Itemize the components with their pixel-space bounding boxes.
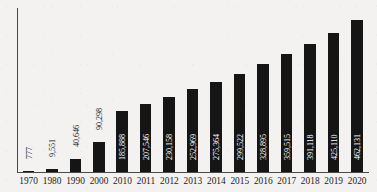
bar-group: 328,895	[252, 8, 274, 172]
bar-value-label: 252,969	[188, 134, 197, 160]
x-axis-tick-label: 2019	[323, 176, 345, 186]
bar[interactable]	[23, 171, 35, 173]
x-axis-tick-label: 1980	[41, 176, 63, 186]
x-axis-tick-label: 2013	[182, 176, 204, 186]
x-axis-tick-label: 2014	[205, 176, 227, 186]
bar-group: 252,969	[182, 8, 204, 172]
x-axis-tick-label: 2020	[346, 176, 368, 186]
bar-group: 359,515	[276, 8, 298, 172]
x-axis-line	[17, 172, 369, 173]
bar-group: 777	[18, 8, 40, 172]
bar-value-label: 328,895	[259, 134, 268, 160]
bar[interactable]	[70, 159, 82, 172]
bar-group: 425,110	[323, 8, 345, 172]
bar-value-label: 275,364	[212, 134, 221, 160]
bar-group: 90,298	[88, 8, 110, 172]
plot-area: 7779,55140,64690,298185,888207,546230,15…	[17, 8, 369, 172]
bar-group: 230,158	[158, 8, 180, 172]
bar-group: 207,546	[135, 8, 157, 172]
bar-value-label: 207,546	[141, 134, 150, 160]
x-axis-tick-label: 2012	[158, 176, 180, 186]
bar-value-label: 462,131	[353, 134, 362, 160]
x-axis-labels: 1970198019902000201020112012201320142015…	[17, 175, 369, 192]
x-axis-tick-label: 1970	[18, 176, 40, 186]
x-axis-tick-label: 2011	[135, 176, 157, 186]
x-axis-tick-label: 2010	[111, 176, 133, 186]
bar-value-label: 359,515	[282, 134, 291, 160]
bar-group: 9,551	[41, 8, 63, 172]
bar-group: 299,522	[229, 8, 251, 172]
bar-value-label: 425,110	[329, 134, 338, 160]
bar-chart: 7779,55140,64690,298185,888207,546230,15…	[0, 0, 377, 192]
x-axis-tick-label: 2017	[276, 176, 298, 186]
bar-value-label: 185,888	[118, 134, 127, 160]
bar-value-label: 777	[24, 147, 33, 159]
bar-value-label: 90,298	[95, 108, 104, 130]
bar-value-label: 9,551	[48, 139, 57, 157]
x-axis-tick-label: 1990	[65, 176, 87, 186]
bar-group: 462,131	[346, 8, 368, 172]
bar-value-label: 391,118	[306, 134, 315, 160]
bar-value-label: 230,158	[165, 134, 174, 160]
bar-group: 275,364	[205, 8, 227, 172]
x-axis-tick-label: 2000	[88, 176, 110, 186]
bar-group: 185,888	[111, 8, 133, 172]
bar-value-label: 40,646	[71, 125, 80, 147]
bar-group: 391,118	[299, 8, 321, 172]
x-axis-tick-label: 2018	[299, 176, 321, 186]
bar-group: 40,646	[65, 8, 87, 172]
bar-value-label: 299,522	[235, 134, 244, 160]
x-axis-tick-label: 2015	[229, 176, 251, 186]
bar[interactable]	[93, 142, 105, 172]
bar[interactable]	[46, 169, 58, 172]
x-axis-tick-label: 2016	[252, 176, 274, 186]
